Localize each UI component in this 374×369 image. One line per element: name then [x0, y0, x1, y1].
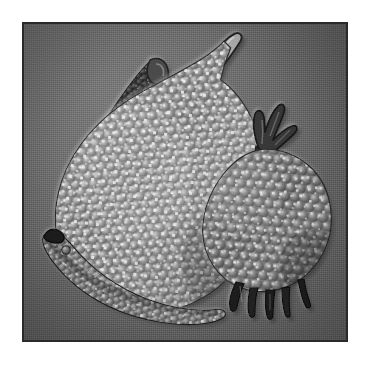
image-canvas: Beadwork Still Life with Fruit bead mosa… [0, 0, 374, 369]
artwork-frame [22, 22, 348, 342]
beadwork-composition [24, 24, 346, 340]
